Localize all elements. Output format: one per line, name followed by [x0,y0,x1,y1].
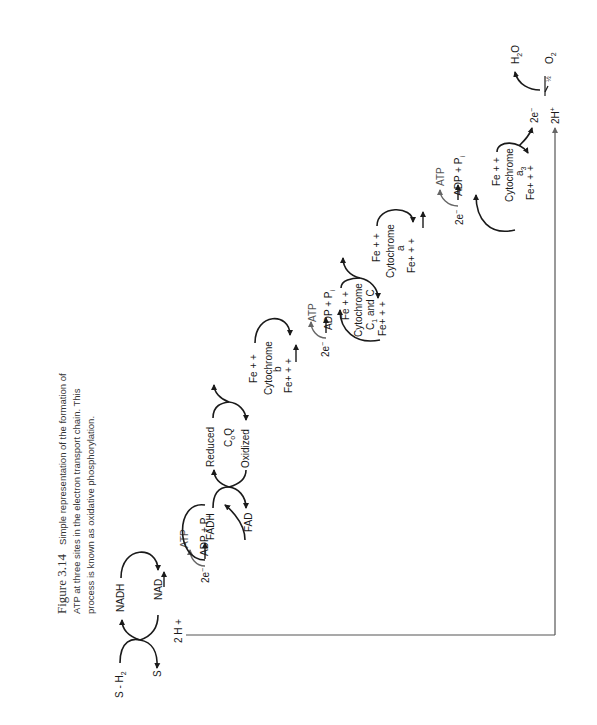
figure-caption: Figure 3.14 Simple representation of the… [54,373,96,614]
nad-label: NAD [153,579,164,600]
cyt-b-fe3-label: Fe+ + + [283,358,294,393]
cytochrome-a: Fe + + Cytochrome a Fe+ + + [343,210,417,278]
arrow-to-water [515,72,540,90]
diagram-canvas: Figure 3.14 Simple representation of the… [0,0,597,725]
arrow-to-reduced-coq [214,470,229,487]
cytochrome-a3: Fe + + Cytochrome a3 Fe+ + + [476,128,536,231]
cyt-b-letter-label: b [272,366,283,372]
arrow-fad-loop-return [225,505,245,540]
caption-line-2: ATP at three sites in the electron trans… [71,388,82,614]
atp-label-2: ATP [307,303,318,322]
nadh-label: NADH [115,584,126,612]
electrons-label-3: 2e− [453,210,465,225]
atp-label-3: ATP [435,167,446,186]
coq-reduced-label: Reduced [205,427,216,467]
protons-label-final: 2H+ [549,107,561,124]
arrow-cyt-a-loop [377,210,413,226]
curve-oxidized-coq [229,470,246,487]
atp-site-3: 2e− ATP ADP + Pi [423,156,466,228]
fad-label: FAD [243,513,254,532]
oxygen-reduction: 2e− 2H+ ½ O2 H2O [510,45,561,124]
atp-site-2: 2e− ATP ADP + Pi [296,290,336,362]
arrow-to-nadh [122,620,140,640]
arrow-to-cyt-a-fe2 [343,258,360,278]
cyt-a-letter-label: a [395,245,406,251]
cyt-a3-fe2-label: Fe + + [491,157,502,186]
curve-fadh-to-cross [213,487,229,508]
water-label: H2O [510,45,523,64]
curve-reduced-coq-to-cross [213,402,229,418]
figure-electron-transport-chain: Figure 3.14 Simple representation of the… [0,0,597,725]
electrons-label-2: 2e− [319,342,331,357]
electrons-label-final: 2e− [528,108,540,123]
curve-sh2 [120,639,140,663]
fad-couple: FADH FAD [183,487,255,560]
caption-line-3: process is known as oxidative phosphoryl… [85,416,96,614]
cyt-a-fe2-label: Fe + + [371,233,382,262]
arrow-to-fad [229,487,246,508]
fadh-label: FADH [205,513,216,540]
cyt-a3-fe3-label: Fe+ + + [525,165,536,200]
adp-label-3: ADP + Pi [453,156,466,196]
half-label: ½ [545,76,552,82]
arrow-nadh-to-nad [121,552,158,578]
substrate-oxidized-label: S [152,670,163,677]
cyt-b-fe2-label: Fe + + [248,354,259,383]
cyt-a-fe3-label: Fe+ + + [406,238,417,273]
coq-name-label: CoQ [223,428,236,447]
arrow-to-cyt-b-fe2 [214,385,229,402]
proton-return-path [186,128,555,635]
cytochrome-c1-c: Fe + + Cytochrome C1 and C Fe+ + + [340,278,388,341]
arrow-to-s [140,640,157,668]
adp-label-2: ADP + Pi [323,290,336,330]
cyt-c-fe2-label: Fe + + [340,291,351,320]
figure-label: Figure 3.14 [54,554,69,614]
substrate-nad-couple: S - H2 S NADH NAD 2 H + [114,552,184,698]
electrons-label-1: 2e− [199,568,211,583]
cyt-c-name-label: Cytochrome [353,283,364,337]
caption-line-1: Simple representation of the formation o… [57,373,68,545]
arrow-to-final-2e [519,128,532,146]
protons-label: 2 H + [173,619,184,643]
cyt-c-fe3-label: Fe+ + + [377,301,388,336]
coq-couple: Reduced CoQ Oxidized [205,402,251,487]
coq-oxidized-label: Oxidized [240,429,251,468]
oxygen-label: O2 [544,52,557,64]
substrate-reduced-label: S - H2 [114,671,127,698]
curve-nad [140,615,158,640]
cytochrome-b: Fe + + Cytochrome b Fe+ + + [214,319,294,402]
arrow-to-oxidized-coq [229,402,246,420]
arrow-cyt-b-loop [255,319,290,343]
